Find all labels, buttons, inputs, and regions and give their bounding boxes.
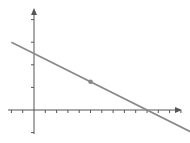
series-line	[11, 42, 190, 132]
axes	[8, 8, 190, 134]
y-axis-arrow-icon	[31, 8, 37, 15]
data-point	[88, 79, 93, 84]
line-chart	[0, 0, 190, 143]
data-series	[11, 42, 190, 132]
data-points	[88, 79, 93, 84]
